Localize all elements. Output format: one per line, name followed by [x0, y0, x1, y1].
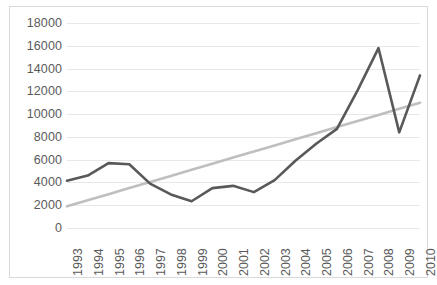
y-axis-tick-label: 16000 — [27, 40, 62, 53]
x-axis-tick-label: 2000 — [217, 248, 230, 276]
x-axis-tick-label: 2004 — [300, 248, 313, 276]
gridline — [67, 137, 420, 138]
y-axis-tick-label: 2000 — [34, 199, 62, 212]
y-axis: 0200040006000800010000120001400016000180… — [14, 23, 62, 228]
y-axis-tick-label: 0 — [55, 222, 62, 235]
y-axis-tick-label: 14000 — [27, 63, 62, 76]
gridline — [67, 69, 420, 70]
x-axis-tick-label: 1998 — [176, 248, 189, 276]
gridline — [67, 205, 420, 206]
x-axis-tick-label: 2007 — [363, 248, 376, 276]
x-axis-tick-label: 1996 — [134, 248, 147, 276]
y-axis-tick-label: 18000 — [27, 17, 62, 30]
chart-container: 0200040006000800010000120001400016000180… — [0, 0, 437, 285]
x-axis: 1993199419951996199719981999200020012002… — [67, 232, 420, 280]
x-axis-tick-label: 1999 — [197, 248, 210, 276]
x-axis-tick-label: 2005 — [321, 248, 334, 276]
gridline — [67, 114, 420, 115]
gridline — [67, 160, 420, 161]
x-axis-tick-label: 2001 — [238, 248, 251, 276]
x-axis-tick-label: 2009 — [404, 248, 417, 276]
y-axis-tick-label: 4000 — [34, 176, 62, 189]
y-axis-tick-label: 12000 — [27, 85, 62, 98]
x-axis-tick-label: 2003 — [280, 248, 293, 276]
y-axis-tick-label: 6000 — [34, 154, 62, 167]
x-axis-tick-label: 1993 — [72, 248, 85, 276]
chart-gridlines — [67, 23, 420, 228]
gridline — [67, 182, 420, 183]
x-axis-tick-label: 1995 — [114, 248, 127, 276]
x-axis-tick-label: 1997 — [155, 248, 168, 276]
gridline — [67, 46, 420, 47]
y-axis-tick-label: 8000 — [34, 131, 62, 144]
x-axis-tick-label: 2008 — [383, 248, 396, 276]
gridline — [67, 23, 420, 24]
x-axis-tick-label: 2002 — [259, 248, 272, 276]
x-axis-tick-label: 2006 — [342, 248, 355, 276]
x-axis-tick-label: 1994 — [93, 248, 106, 276]
y-axis-tick-label: 10000 — [27, 108, 62, 121]
gridline — [67, 91, 420, 92]
x-axis-tick-label: 2010 — [425, 248, 437, 276]
gridline — [67, 228, 420, 229]
